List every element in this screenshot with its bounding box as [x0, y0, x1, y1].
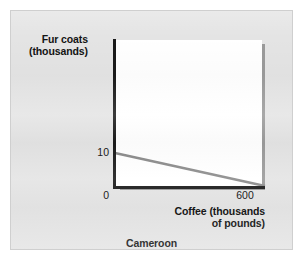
x-tick-label-0: 0: [89, 189, 109, 201]
y-axis-line: [113, 39, 116, 189]
data-line: [113, 39, 265, 189]
x-axis-label: Coffee (thousandsof pounds): [131, 205, 265, 230]
y-axis-label-line2: (thousands): [29, 45, 88, 57]
figure-caption: Cameroon: [11, 237, 292, 249]
x-axis-label-line2: of pounds): [212, 217, 265, 229]
y-axis-label: Fur coats(thousands): [29, 33, 88, 58]
x-axis-label-line1: Coffee (thousands: [175, 205, 265, 217]
y-tick-label-10: 10: [83, 146, 109, 158]
x-tick-label-600: 600: [225, 189, 265, 201]
y-axis-label-line1: Fur coats: [42, 33, 88, 45]
figure-panel: Fur coats(thousands) Coffee (thousandsof…: [10, 10, 293, 250]
